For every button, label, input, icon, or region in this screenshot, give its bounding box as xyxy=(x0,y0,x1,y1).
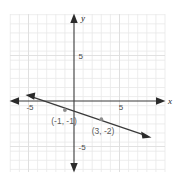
graph-screenshot: y x 5 -5 5 -5 (-1, -1) (3, -2) xyxy=(0,0,177,182)
data-point-3-minus2 xyxy=(99,117,103,121)
y-tick-label-positive-5: 5 xyxy=(79,52,84,61)
y-axis-label: y xyxy=(80,13,85,23)
x-tick-label-negative-5: -5 xyxy=(26,103,34,112)
x-tick-label-positive-5: 5 xyxy=(119,103,124,112)
point-label-3-minus2: (3, -2) xyxy=(92,126,115,136)
y-tick-label-negative-5: -5 xyxy=(79,143,87,152)
point-label-minus1-minus1: (-1, -1) xyxy=(51,116,77,126)
data-point-minus1-minus1 xyxy=(63,108,67,112)
coordinate-plane-graph: y x 5 -5 5 -5 (-1, -1) (3, -2) xyxy=(0,0,177,182)
x-axis-label: x xyxy=(167,96,172,106)
